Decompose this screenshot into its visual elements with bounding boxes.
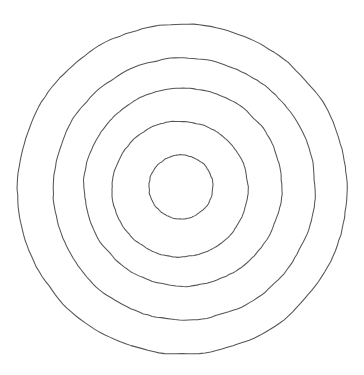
figure-container: Concentric circles Five concentric hand-… [0,0,364,375]
canvas-background [0,0,364,375]
concentric-circles-diagram [0,0,364,375]
